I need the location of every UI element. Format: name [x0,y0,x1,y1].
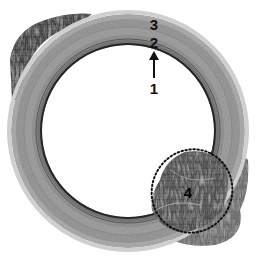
micrograph [0,0,259,263]
label-layer-3: 3 [150,17,158,32]
histology-figure: 3 2 1 4 [0,0,259,263]
label-region-4: 4 [184,185,192,200]
label-layer-2: 2 [150,35,158,50]
label-layer-1: 1 [150,81,158,96]
